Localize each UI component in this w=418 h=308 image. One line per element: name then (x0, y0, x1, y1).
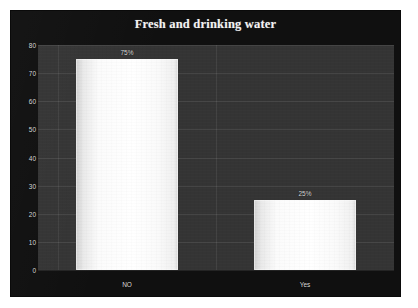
x-axis: NOYes (38, 275, 394, 295)
y-axis-tick-label: 0 (14, 267, 36, 274)
gridline-horizontal (38, 270, 394, 271)
y-axis-tick-label: 10 (14, 238, 36, 245)
chart-title: Fresh and drinking water (11, 17, 400, 32)
y-axis-tick-label: 20 (14, 210, 36, 217)
x-axis-tick-label: NO (122, 281, 132, 288)
x-axis-tick-label: Yes (300, 281, 311, 288)
y-axis-tick-label: 50 (14, 126, 36, 133)
bar[interactable] (254, 200, 356, 270)
y-axis-tick-label: 80 (14, 42, 36, 49)
gridline-vertical (58, 45, 59, 270)
y-axis-tick-label: 30 (14, 182, 36, 189)
chart-frame: Fresh and drinking water 010203040506070… (11, 11, 400, 296)
gridline-vertical (216, 45, 217, 270)
bar-value-label: 75% (120, 49, 133, 56)
bar-value-label: 25% (298, 190, 311, 197)
bar[interactable] (76, 59, 178, 270)
y-axis-tick-label: 40 (14, 154, 36, 161)
bar-texture (76, 59, 178, 270)
y-axis: 01020304050607080 (11, 45, 36, 270)
y-axis-tick-label: 70 (14, 70, 36, 77)
bar-texture (254, 200, 356, 270)
y-axis-tick-label: 60 (14, 98, 36, 105)
plot-area: 75%25% (38, 45, 394, 270)
